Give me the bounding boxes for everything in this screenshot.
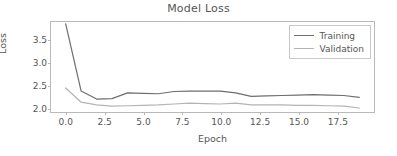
legend-label: Training	[320, 31, 356, 41]
x-tick-label: 5.0	[136, 117, 150, 127]
y-tick-label: 2.5	[33, 81, 47, 91]
x-tick-mark	[105, 112, 106, 115]
x-tick-mark	[221, 112, 222, 115]
chart-legend: TrainingValidation	[289, 25, 371, 59]
x-tick-label: 7.5	[175, 117, 189, 127]
y-axis-label: Loss	[0, 14, 8, 74]
legend-label: Validation	[320, 44, 364, 54]
y-tick-label: 3.0	[33, 58, 47, 68]
plot-area: TrainingValidation 2.02.53.03.50.02.55.0…	[50, 21, 375, 113]
x-tick-mark	[338, 112, 339, 115]
x-tick-label: 17.5	[328, 117, 348, 127]
x-tick-label: 15.0	[289, 117, 309, 127]
x-tick-mark	[144, 112, 145, 115]
x-tick-mark	[182, 112, 183, 115]
chart-figure: Model Loss TrainingValidation 2.02.53.03…	[0, 0, 397, 156]
x-tick-label: 2.5	[97, 117, 111, 127]
x-tick-label: 0.0	[59, 117, 73, 127]
legend-line-swatch	[294, 35, 314, 36]
y-tick-mark	[48, 63, 51, 64]
y-tick-label: 3.5	[33, 35, 47, 45]
x-tick-mark	[66, 112, 67, 115]
x-tick-mark	[299, 112, 300, 115]
y-tick-mark	[48, 86, 51, 87]
chart-title: Model Loss	[0, 2, 397, 15]
y-tick-mark	[48, 109, 51, 110]
x-tick-mark	[260, 112, 261, 115]
x-axis-label: Epoch	[50, 133, 375, 144]
legend-line-swatch	[294, 48, 314, 49]
legend-item: Validation	[294, 42, 364, 55]
y-tick-label: 2.0	[33, 104, 47, 114]
x-tick-label: 12.5	[250, 117, 270, 127]
x-tick-label: 10.0	[211, 117, 231, 127]
y-tick-mark	[48, 40, 51, 41]
legend-item: Training	[294, 29, 364, 42]
